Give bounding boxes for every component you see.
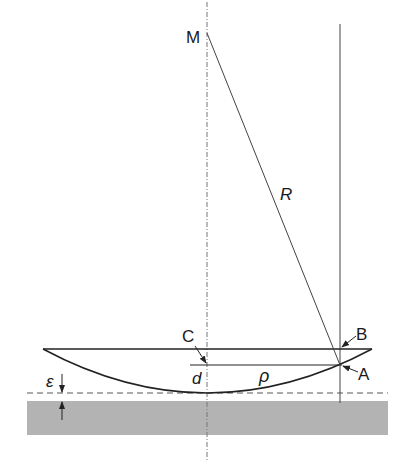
newtons-rings-diagram: M R C d ρ B A ε: [0, 0, 404, 475]
radius-line-m-a: [207, 33, 340, 365]
label-rho: ρ: [258, 366, 269, 386]
label-d: d: [192, 369, 202, 388]
label-m: M: [186, 28, 200, 47]
arrow-b: [342, 336, 356, 347]
label-r: R: [280, 185, 292, 204]
label-c: C: [182, 327, 194, 346]
arrow-a: [343, 366, 358, 372]
label-a: A: [358, 365, 370, 384]
label-b: B: [356, 325, 367, 344]
label-epsilon: ε: [46, 372, 54, 391]
